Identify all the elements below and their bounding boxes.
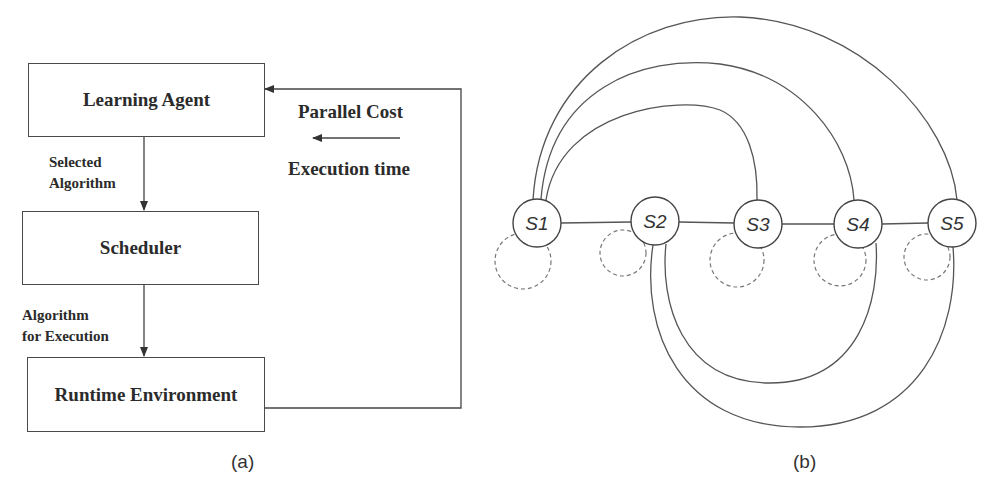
arc-s2-s5 — [651, 245, 954, 427]
edge-s2-s3 — [679, 222, 734, 223]
node-s4-label: S4 — [846, 214, 869, 235]
edge-s1-s2 — [561, 222, 631, 223]
figure-b: S1 S2 S3 S4 S5 (b) — [0, 0, 996, 486]
figure-b-caption: (b) — [793, 451, 816, 473]
arc-s1-s4 — [541, 63, 854, 200]
node-s2-label: S2 — [643, 211, 667, 232]
arc-s1-s3 — [546, 105, 757, 200]
arc-s2-s4 — [665, 243, 876, 383]
arc-s1-s5 — [533, 17, 957, 200]
edge-s4-s5 — [882, 223, 928, 224]
node-s5-label: S5 — [940, 213, 964, 234]
node-s3-label: S3 — [746, 214, 770, 235]
state-graph: S1 S2 S3 S4 S5 — [0, 0, 996, 486]
node-s1-label: S1 — [525, 213, 548, 234]
